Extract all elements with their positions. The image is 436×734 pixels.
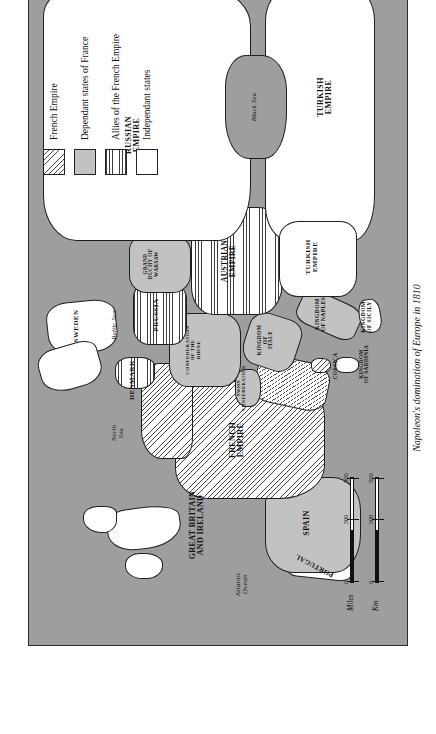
scale-track-miles: 0 300 500: [350, 477, 354, 583]
scale-num-km-0: 0: [367, 580, 374, 583]
map-legend: French Empire Dependant states of France…: [43, 0, 167, 175]
scale-track-km: 0 300 500: [375, 477, 379, 583]
scale-num-km-max: 500: [367, 473, 374, 483]
scale-unit-miles: Miles: [346, 594, 355, 611]
territory-denmark: [115, 357, 155, 389]
legend-item-french-empire: French Empire: [43, 0, 65, 175]
territory-ireland: [125, 553, 163, 579]
territory-swiss-confederation: [235, 369, 261, 407]
page-canvas: Napoleonic Europe: [0, 0, 436, 734]
scale-num-miles-mid: 300: [342, 515, 349, 525]
scale-row-km: Km 0 300 500: [370, 477, 385, 609]
legend-swatch-hatch-icon: [43, 149, 65, 175]
scale-fill-km: [376, 530, 378, 582]
scale-row-miles: Miles 0 300 500: [345, 477, 360, 609]
scale-unit-km: Km: [371, 601, 380, 611]
legend-label-french-empire: French Empire: [49, 83, 59, 140]
territory-kingdom-of-sardinia: [335, 357, 359, 373]
legend-item-dependant-states: Dependant states of France: [74, 0, 96, 175]
legend-label-dependant-states: Dependant states of France: [80, 37, 90, 140]
water-black-sea-body: [225, 55, 287, 159]
territory-turkish-empire-balkans: [279, 221, 357, 297]
map-frame: GREAT BRITAIN AND IRELAND Atlantic Ocean…: [28, 0, 408, 646]
caption-rotation-wrapper: Napoleon's domination of Europe in 1810: [406, 203, 422, 533]
legend-swatch-lines-icon: [105, 149, 127, 175]
scale-fill-miles: [351, 530, 353, 582]
scale-num-km-mid: 300: [367, 515, 374, 525]
figure-caption: Napoleon's domination of Europe in 1810: [411, 284, 422, 452]
legend-swatch-white-icon: [136, 149, 158, 175]
scale-num-miles-max: 500: [342, 473, 349, 483]
legend-swatch-solid-icon: [74, 149, 96, 175]
legend-label-allies: Allies of the French Empire: [111, 34, 121, 140]
legend-item-allies: Allies of the French Empire: [105, 0, 127, 175]
scale-bar: Miles 0 300 500 Km: [345, 477, 385, 609]
territory-grand-duchy-of-warsaw: [129, 235, 191, 293]
territory-corsica: [311, 358, 331, 373]
map-rotation-wrapper: GREAT BRITAIN AND IRELAND Atlantic Ocean…: [28, 0, 408, 646]
territory-scotland: [83, 506, 117, 533]
legend-label-independant-states: Independant states: [142, 70, 152, 140]
scale-num-miles-0: 0: [342, 580, 349, 583]
legend-item-independant-states: Independant states: [136, 0, 158, 175]
